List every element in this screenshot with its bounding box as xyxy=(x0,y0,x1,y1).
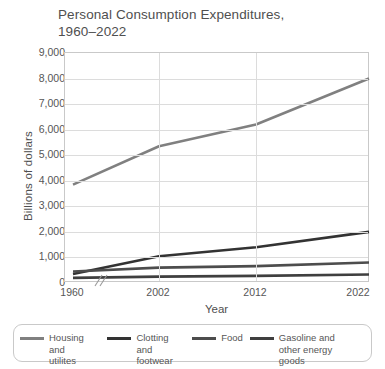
legend-item-label: Food xyxy=(221,332,243,344)
series-lines xyxy=(65,53,370,283)
gridline-horizontal xyxy=(65,130,368,131)
legend-swatch-icon xyxy=(250,337,274,340)
legend-item-clotting-and-footwear[interactable]: Clotting and footwear xyxy=(107,332,185,367)
y-tick-label: 6,000 xyxy=(19,123,65,135)
legend-swatch-icon xyxy=(107,337,131,340)
legend-item-food[interactable]: Food xyxy=(192,332,243,344)
y-tick-label: 7,000 xyxy=(19,97,65,109)
x-tick-label: 1960 xyxy=(60,286,83,298)
gridline-horizontal xyxy=(65,155,368,156)
plot-area xyxy=(64,52,369,282)
series-line xyxy=(73,275,369,278)
x-tick-label: 2002 xyxy=(146,286,169,298)
legend-swatch-icon xyxy=(192,337,216,340)
x-tick-label: 2022 xyxy=(346,286,369,298)
y-tick-label: 9,000 xyxy=(19,46,65,58)
y-tick-label: 0 xyxy=(19,276,65,288)
y-tick-label: 5,000 xyxy=(19,148,65,160)
y-tick-label: 3,000 xyxy=(19,199,65,211)
gridline-horizontal xyxy=(65,79,368,80)
gridline-horizontal xyxy=(65,206,368,207)
chart-figure: Personal Consumption Expenditures, 1960–… xyxy=(0,0,385,369)
y-tick-label: 2,000 xyxy=(19,225,65,237)
series-line xyxy=(73,79,369,185)
legend-item-label: Housing and utilites xyxy=(49,332,100,367)
gridline-horizontal xyxy=(65,232,368,233)
gridline-horizontal xyxy=(65,104,368,105)
x-tick-label: 2012 xyxy=(243,286,266,298)
legend-item-gasoline-and-other-energy-goods[interactable]: Gasoline and other energy goods xyxy=(250,332,358,367)
y-tick-label: 8,000 xyxy=(19,72,65,84)
chart-legend: Housing and utilites Clotting and footwe… xyxy=(13,324,372,362)
axis-break-icon xyxy=(92,274,110,288)
chart-title: Personal Consumption Expenditures, 1960–… xyxy=(58,6,368,40)
x-axis-title: Year xyxy=(64,303,369,315)
y-tick-label: 4,000 xyxy=(19,174,65,186)
legend-item-label: Gasoline and other energy goods xyxy=(279,332,358,367)
gridline-vertical xyxy=(159,53,160,281)
legend-item-label: Clotting and footwear xyxy=(136,332,185,367)
y-tick-label: 1,000 xyxy=(19,250,65,262)
gridline-horizontal xyxy=(65,181,368,182)
legend-item-housing-and-utilites[interactable]: Housing and utilites xyxy=(20,332,100,367)
gridline-horizontal xyxy=(65,257,368,258)
gridline-vertical xyxy=(256,53,257,281)
legend-swatch-icon xyxy=(20,337,44,340)
